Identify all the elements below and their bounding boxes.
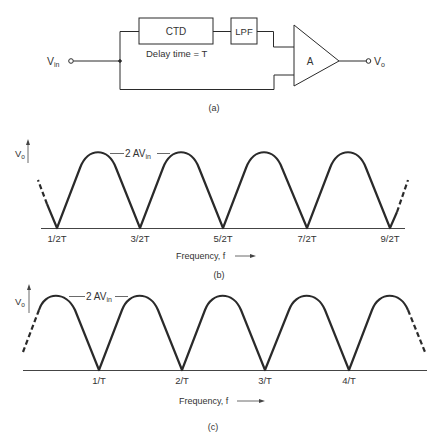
peak-label-b: 2 AVin	[125, 148, 151, 160]
x-axis-arrow-icon	[250, 254, 256, 258]
y-axis-arrow-icon	[27, 284, 31, 290]
tick-b-4: 9/2T	[380, 233, 399, 244]
tick-b-1: 3/2T	[130, 233, 149, 244]
output-terminal-icon	[366, 59, 371, 64]
output-label: Vo	[374, 55, 385, 68]
amplifier-triangle	[294, 25, 339, 86]
y-axis-label-c: Vo	[15, 296, 25, 308]
y-axis-label-b: Vo	[15, 148, 25, 160]
input-terminal-icon	[69, 59, 74, 64]
block-diagram	[69, 18, 371, 90]
tick-b-2: 5/2T	[213, 233, 232, 244]
tick-c-0: 1/T	[92, 375, 106, 386]
tick-c-1: 2/T	[175, 375, 189, 386]
input-label: Vin	[47, 55, 60, 68]
amp-label: A	[307, 56, 314, 67]
x-axis-arrow-icon	[259, 399, 265, 403]
response-curve-c	[39, 296, 408, 370]
tick-b-3: 7/2T	[297, 233, 316, 244]
ctd-label: CTD	[166, 26, 187, 37]
graph-c: Vo 2 AVin 1/T 2/T 3/T 4/T Frequency, f (…	[15, 284, 427, 432]
x-axis-label-c: Frequency, f	[179, 396, 229, 406]
peak-label-c: 2 AVin	[86, 291, 112, 303]
y-axis-arrow-icon	[26, 139, 30, 145]
caption-c: (c)	[208, 422, 219, 432]
tick-c-3: 4/T	[342, 375, 356, 386]
lpf-label: LPF	[235, 26, 253, 37]
caption-b: (b)	[214, 270, 225, 280]
tick-c-2: 3/T	[258, 375, 272, 386]
block-labels: Vin CTD Delay time = T LPF A Vo (a)	[47, 26, 385, 113]
caption-a: (a)	[209, 103, 220, 113]
delay-label: Delay time = T	[146, 48, 208, 59]
graph-b: Vo 2 AVin 1/2T 3/2T 5/2T 7/2T 9/2T Frequ…	[15, 139, 408, 280]
x-axis-label-b: Frequency, f	[176, 251, 226, 261]
tick-b-0: 1/2T	[47, 233, 66, 244]
response-curve-b	[47, 152, 397, 228]
